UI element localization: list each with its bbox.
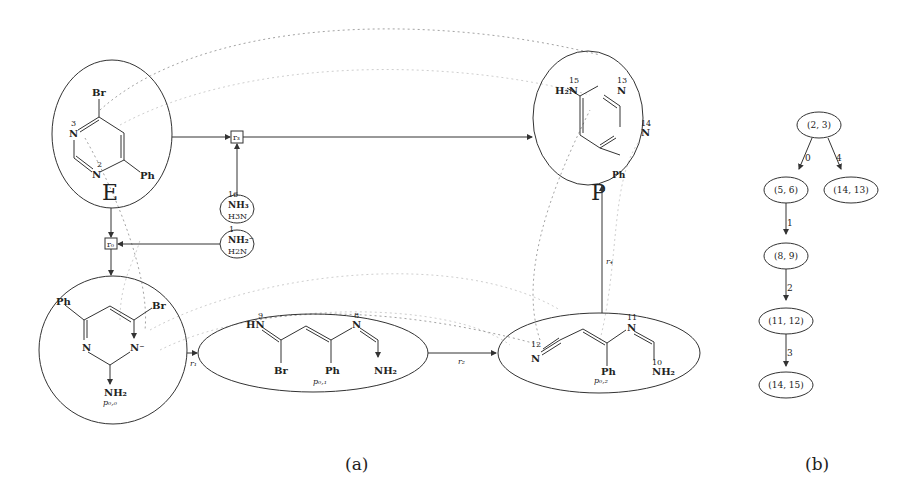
tree-node[interactable]: (11, 12)	[759, 308, 813, 334]
atom-ph: Ph	[612, 170, 626, 180]
caption-b: (b)	[805, 454, 829, 474]
reagent-nh2-minus[interactable]: 1 NH₂⁻ H2N	[220, 225, 254, 258]
caption-a: (a)	[345, 454, 368, 474]
molecule-p02[interactable]: 12 N 11 N Ph 10 NH₂ p₀,₂	[498, 313, 700, 393]
molecule-label: E	[102, 180, 118, 205]
atom-n: N	[617, 85, 626, 96]
reagent-name: H2N	[228, 247, 247, 256]
atom-number: 3	[71, 119, 76, 128]
atom-n-minus: N⁻	[130, 342, 144, 353]
intermediate-label: p₀,₀	[103, 398, 118, 407]
reaction-label: r₀	[107, 240, 114, 249]
atom-n: N	[641, 127, 650, 138]
edge-label: 2	[787, 283, 793, 293]
tree-node[interactable]: (8, 9)	[764, 243, 808, 269]
tree-node[interactable]: (14, 15)	[759, 372, 813, 398]
atom-br: Br	[274, 365, 288, 376]
atom-ph: Ph	[140, 170, 156, 181]
atom-br: Br	[152, 300, 166, 311]
atom-n: N	[531, 353, 540, 364]
intermediate-label: p₀,₂	[594, 376, 608, 385]
tree-node[interactable]: (5, 6)	[764, 177, 808, 203]
atom-br: Br	[92, 87, 106, 98]
edge-label: 0	[805, 153, 811, 163]
atom-number: 2	[97, 160, 102, 169]
atom-number: 11	[627, 313, 637, 322]
node-label: (11, 12)	[768, 316, 804, 326]
atom-nh2: H₂N	[555, 85, 578, 96]
reaction-label-r2: r₂	[458, 357, 465, 366]
tree-node[interactable]: (14, 13)	[824, 177, 878, 203]
atom-number: 13	[617, 76, 627, 85]
reaction-diagram: Br 3 N 2 N Ph E 15 H₂N 13 N 14 N Ph P	[0, 0, 911, 491]
molecule-p00[interactable]: Ph Br N N⁻ NH₂ p₀,₀	[39, 276, 187, 424]
atom-number: 1	[229, 225, 234, 234]
molecule-P[interactable]: 15 H₂N 13 N 14 N Ph P	[533, 51, 651, 205]
atom-nh2: NH₂	[652, 366, 675, 377]
atom-nh2: NH₂	[374, 365, 397, 376]
molecule-p01[interactable]: 9 HN 8 N Br Ph NH₂ p₀,₁	[198, 311, 428, 392]
reagent-formula: NH₃	[228, 200, 249, 210]
reaction-edges: r₃ r₀ r₁ r₂ r₄	[105, 131, 613, 368]
node-label: (14, 13)	[833, 185, 869, 195]
atom-n: N	[82, 342, 91, 353]
node-label: (5, 6)	[774, 185, 798, 195]
intermediate-label: p₀,₁	[313, 377, 327, 386]
atom-number: 15	[569, 76, 579, 85]
atom-n: N	[69, 128, 78, 139]
atom-n: N	[92, 169, 101, 180]
atom-n: N	[352, 319, 361, 330]
edge-label: 1	[787, 218, 793, 228]
molecule-label: P	[591, 180, 606, 205]
reaction-label-r4: r₄	[606, 257, 613, 266]
atom-ph: Ph	[325, 365, 341, 376]
reaction-label-r1: r₁	[190, 359, 197, 368]
atom-nh2: NH₂	[104, 387, 127, 398]
edge-label: 3	[787, 348, 793, 358]
node-label: (14, 15)	[768, 380, 804, 390]
mapping-tree: 0 4 1 2 3 (2, 3) (5, 6) (14, 13) (8, 9) …	[759, 112, 878, 398]
atom-mapping-arcs	[85, 29, 640, 350]
atom-hn: HN	[246, 319, 265, 330]
tree-node[interactable]: (2, 3)	[797, 112, 841, 138]
molecule-E[interactable]: Br 3 N 2 N Ph E	[52, 60, 172, 208]
node-label: (2, 3)	[807, 120, 831, 130]
atom-number: 12	[531, 340, 541, 349]
reagent-formula: NH₂⁻	[228, 235, 254, 245]
reagent-name: H3N	[228, 212, 247, 221]
node-label: (8, 9)	[774, 251, 798, 261]
reaction-label: r₃	[233, 133, 240, 142]
edge-label: 4	[836, 153, 842, 163]
atom-ph: Ph	[56, 296, 72, 307]
atom-n: N	[627, 322, 636, 333]
